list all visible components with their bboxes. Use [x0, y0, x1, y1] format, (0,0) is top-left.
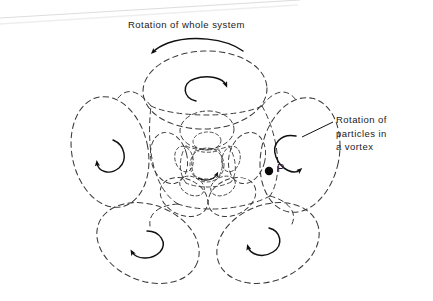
core-center-circle — [190, 148, 224, 182]
arrow-bottom-right-vortex — [248, 228, 280, 255]
middle-vortex-top — [179, 110, 235, 151]
particle-rotation-line-2: particles in — [336, 127, 387, 141]
particle-rotation-line-3: a vortex — [336, 140, 387, 154]
vortex-interstitial-boundaries — [118, 92, 296, 226]
middle-vortex-right — [223, 128, 271, 187]
arrow-top-vortex — [185, 77, 226, 101]
point-p-marker — [265, 167, 273, 175]
system-rotation-label: Rotation of whole system — [128, 19, 245, 32]
arrow-bottom-left-vortex — [132, 231, 163, 258]
outer-vortex-left — [61, 89, 159, 214]
system-rotation-arrow — [153, 39, 243, 52]
point-p-label: P — [277, 162, 284, 175]
outer-vortex-bottom-right — [205, 188, 332, 298]
outer-vortex-ring — [61, 49, 350, 298]
inner-vortex-core — [172, 131, 243, 200]
outer-vortex-right — [250, 90, 350, 220]
particle-rotation-label: Rotation of particles in a vortex — [336, 113, 387, 154]
outer-vortex-bottom-left — [85, 188, 212, 298]
middle-vortex-bottom-right — [202, 170, 263, 224]
middle-vortex-bottom-left — [154, 170, 215, 224]
core-lobe-bottom-left — [176, 172, 207, 200]
particle-rotation-line-1: Rotation of — [336, 113, 387, 127]
outer-vortex-top — [142, 49, 269, 131]
arrow-left-vortex — [97, 140, 124, 172]
particle-rotation-leader-line — [302, 122, 333, 137]
